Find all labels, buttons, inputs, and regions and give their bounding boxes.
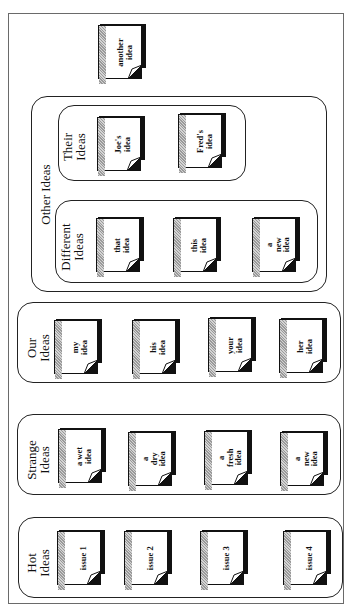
doc-shadow bbox=[248, 430, 252, 474]
doc-stripe bbox=[99, 26, 106, 84]
doc-stripe bbox=[174, 219, 181, 277]
group-label-strange-ideas: Strange Ideas bbox=[25, 430, 51, 490]
document-label: issue 3 bbox=[222, 546, 231, 570]
document-a-new-idea-strange[interactable]: a new idea bbox=[280, 432, 330, 492]
document-his-idea[interactable]: his idea bbox=[132, 320, 182, 380]
doc-stripe bbox=[179, 115, 186, 173]
document-label: issue 1 bbox=[79, 546, 88, 570]
document-a-new-idea-different[interactable]: a new idea bbox=[252, 218, 302, 278]
document-that-idea[interactable]: that idea bbox=[96, 218, 146, 278]
document-issue-1[interactable]: issue 1 bbox=[57, 531, 107, 591]
document-label: another idea bbox=[116, 38, 133, 66]
document-issue-4[interactable]: issue 4 bbox=[283, 531, 333, 591]
document-her-idea[interactable]: her idea bbox=[279, 319, 329, 379]
doc-shadow bbox=[168, 530, 172, 574]
document-label: that idea bbox=[114, 237, 131, 252]
group-label-our-ideas: Our Ideas bbox=[25, 326, 51, 370]
document-label: his idea bbox=[150, 339, 167, 354]
document-a-dry-idea[interactable]: a dry idea bbox=[128, 432, 178, 492]
doc-stripe bbox=[58, 532, 65, 590]
document-this-idea[interactable]: this idea bbox=[173, 218, 223, 278]
document-label: this idea bbox=[191, 237, 208, 252]
document-label: Joe's idea bbox=[114, 135, 131, 153]
document-your-idea[interactable]: your idea bbox=[208, 318, 258, 378]
doc-stripe bbox=[133, 321, 140, 379]
doc-shadow bbox=[98, 319, 102, 363]
doc-stripe bbox=[55, 321, 62, 379]
group-label-other-ideas: Other Ideas bbox=[39, 155, 52, 235]
doc-stripe bbox=[209, 319, 216, 377]
document-label: a new idea bbox=[265, 237, 291, 252]
document-my-idea[interactable]: my idea bbox=[54, 320, 104, 380]
doc-shadow bbox=[102, 428, 106, 472]
doc-stripe bbox=[281, 433, 288, 491]
document-label: a wet idea bbox=[76, 446, 93, 465]
doc-stripe bbox=[129, 433, 136, 491]
doc-shadow bbox=[140, 217, 144, 261]
doc-shadow bbox=[141, 116, 145, 160]
group-label-hot-ideas: Hot Ideas bbox=[25, 541, 51, 585]
document-label: her idea bbox=[297, 338, 314, 353]
doc-shadow bbox=[296, 217, 300, 261]
document-issue-3[interactable]: issue 3 bbox=[200, 531, 250, 591]
doc-shadow bbox=[176, 319, 180, 363]
doc-stripe bbox=[125, 532, 132, 590]
doc-shadow bbox=[142, 24, 146, 68]
doc-stripe bbox=[205, 432, 212, 490]
document-label: your idea bbox=[226, 337, 243, 354]
group-label-their-ideas: Their Ideas bbox=[61, 123, 87, 171]
doc-shadow bbox=[323, 318, 327, 362]
document-another-idea[interactable]: another idea bbox=[98, 25, 148, 85]
document-label: a fresh idea bbox=[217, 449, 243, 467]
doc-shadow bbox=[244, 530, 248, 574]
doc-stripe bbox=[98, 118, 105, 176]
doc-shadow bbox=[324, 431, 328, 475]
doc-stripe bbox=[280, 320, 287, 378]
doc-stripe bbox=[201, 532, 208, 590]
document-label: a dry idea bbox=[141, 451, 167, 466]
doc-stripe bbox=[97, 219, 104, 277]
doc-shadow bbox=[217, 217, 221, 261]
document-label: issue 2 bbox=[146, 546, 155, 570]
document-a-fresh-idea[interactable]: a fresh idea bbox=[204, 431, 254, 491]
doc-shadow bbox=[222, 113, 226, 157]
document-label: a new idea bbox=[293, 451, 319, 466]
doc-stripe bbox=[284, 532, 291, 590]
doc-shadow bbox=[101, 530, 105, 574]
doc-stripe bbox=[253, 219, 260, 277]
doc-shadow bbox=[327, 530, 331, 574]
doc-shadow bbox=[252, 317, 256, 361]
document-label: issue 4 bbox=[305, 546, 314, 570]
document-label: my idea bbox=[72, 339, 89, 354]
document-freds-idea[interactable]: Fred's idea bbox=[178, 114, 228, 174]
document-label: Fred's idea bbox=[195, 130, 212, 153]
document-joes-idea[interactable]: Joe's idea bbox=[97, 117, 147, 177]
group-label-different-ideas: Different Ideas bbox=[59, 215, 85, 279]
document-a-wet-idea[interactable]: a wet idea bbox=[58, 429, 108, 489]
document-issue-2[interactable]: issue 2 bbox=[124, 531, 174, 591]
doc-shadow bbox=[172, 431, 176, 475]
doc-stripe bbox=[59, 430, 66, 488]
